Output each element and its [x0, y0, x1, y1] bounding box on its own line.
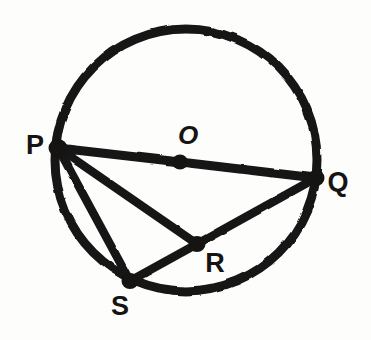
point-label-o: O: [178, 122, 198, 148]
geometry-figure: [0, 0, 371, 340]
vertex-dot-q: [308, 170, 325, 186]
point-label-r: R: [205, 250, 225, 277]
segment-sr: [130, 244, 197, 281]
point-label-s: S: [111, 293, 129, 320]
vertex-dot-r: [189, 236, 206, 252]
point-label-p: P: [26, 132, 44, 159]
vertex-dot-p: [49, 139, 68, 157]
vertex-dot-o: [172, 155, 188, 170]
diagram-canvas: P O Q R S: [0, 0, 371, 340]
vertex-dot-s: [122, 273, 139, 289]
point-label-q: Q: [327, 169, 348, 196]
